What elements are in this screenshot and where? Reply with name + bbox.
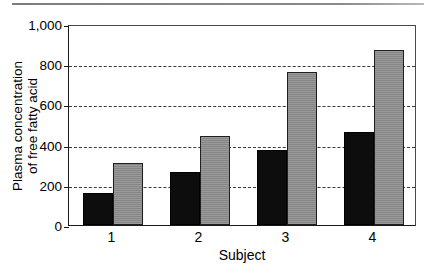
y-tick-mark-1000: [64, 26, 69, 27]
x-axis-title: Subject: [68, 248, 416, 262]
y-tick-mark-800: [64, 66, 69, 67]
y-tick-label-0: 0: [54, 220, 62, 234]
y-tick-mark-600: [64, 106, 69, 107]
y-tick-mark-200: [64, 187, 69, 188]
bar-series-b-subject-3: [287, 72, 317, 225]
bar-series-a-subject-4: [344, 132, 374, 225]
bar-series-b-subject-2: [200, 136, 230, 225]
y-tick-mark-400: [64, 147, 69, 148]
y-tick-label-400: 400: [39, 140, 62, 154]
top-divider-rule: [12, 3, 424, 5]
chart-figure: Plasma concentration of free fatty acid …: [0, 0, 428, 275]
x-tick-label-3: 3: [282, 230, 290, 244]
y-tick-mark-0: [64, 227, 69, 228]
y-axis-title: Plasma concentration of free fatty acid: [8, 25, 42, 226]
y-tick-label-200: 200: [39, 180, 62, 194]
bar-series-a-subject-2: [170, 172, 200, 225]
bar-series-b-subject-1: [113, 163, 143, 225]
y-tick-label-800: 800: [39, 59, 62, 73]
bar-series-a-subject-1: [83, 193, 113, 225]
x-tick-label-1: 1: [108, 230, 116, 244]
y-axis-title-line-2: of free fatty acid: [25, 61, 40, 191]
x-tick-label-2: 2: [195, 230, 203, 244]
x-tick-label-4: 4: [369, 230, 377, 244]
bar-series-b-subject-4: [374, 50, 404, 225]
gridline-800: [69, 66, 415, 67]
y-axis-title-line-1: Plasma concentration: [10, 61, 25, 191]
gridline-600: [69, 106, 415, 107]
plot-area: 02004006008001,000: [68, 25, 416, 226]
y-tick-label-600: 600: [39, 100, 62, 114]
bar-series-a-subject-3: [257, 150, 287, 225]
y-tick-label-1000: 1,000: [28, 19, 62, 33]
